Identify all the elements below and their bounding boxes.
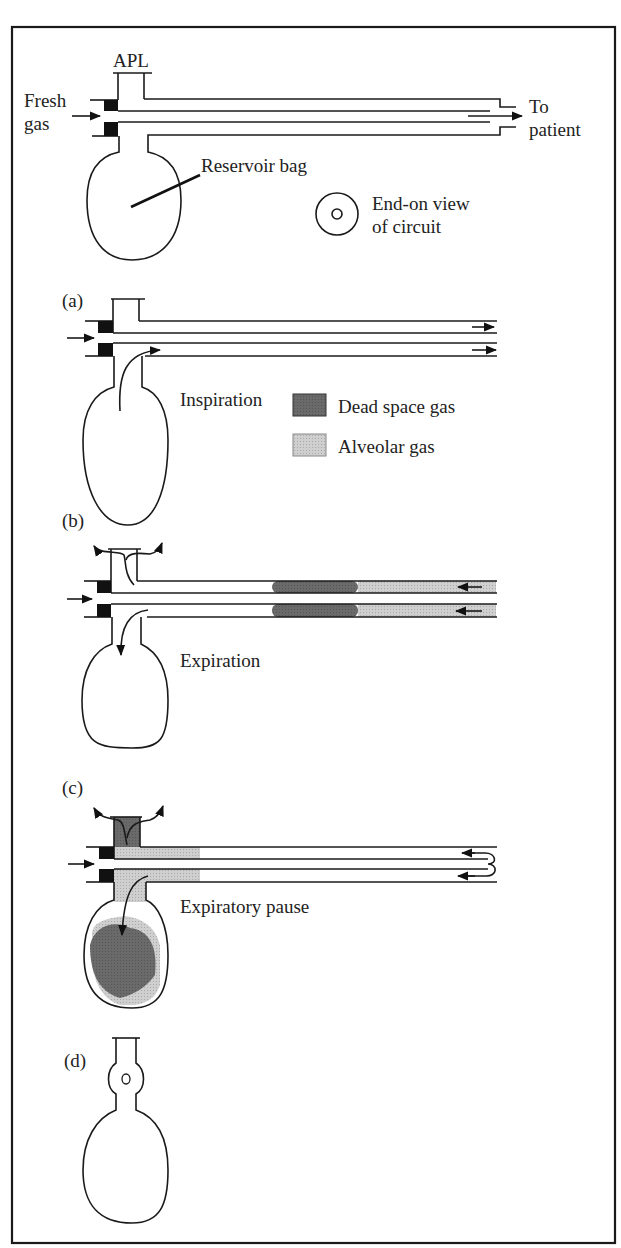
fresh-gas-label: gas	[24, 113, 49, 134]
reservoir-bag-label: Reservoir bag	[201, 155, 308, 176]
reservoir-bag-icon	[83, 356, 168, 525]
phase-label: Expiratory pause	[180, 896, 309, 917]
loop-arrow-icon	[468, 853, 495, 876]
fresh-gas-inlet-block	[104, 100, 118, 111]
end-on-view-label: End-on view	[372, 193, 470, 214]
end-on-view-icon	[316, 193, 358, 235]
patient-to-bag-arrow-icon	[121, 610, 148, 655]
phase-label: Expiration	[180, 650, 261, 671]
fresh-gas-label: Fresh	[24, 90, 67, 111]
legend-swatch-dead-space	[293, 394, 326, 416]
breathing-circuit-figure: APL Fresh gas To patient Reservoir bag E…	[0, 0, 621, 1248]
panel-c-expiratory-pause: (c) Expiratory pause	[62, 777, 497, 1008]
overview-circuit: APL Fresh gas To patient Reservoir bag E…	[24, 50, 581, 260]
panel-tag: (a)	[62, 290, 83, 312]
end-on-view-label: of circuit	[372, 216, 442, 237]
apl-label: APL	[113, 50, 149, 71]
apl-vent-arrow-icon	[126, 543, 162, 560]
end-on-circuit-icon	[122, 1074, 130, 1084]
legend-label: Dead space gas	[338, 396, 455, 417]
to-patient-label: patient	[529, 119, 581, 140]
reservoir-bag-icon	[82, 617, 168, 748]
panel-tag: (b)	[62, 510, 84, 532]
legend-label: Alveolar gas	[338, 436, 435, 457]
reservoir-bag-icon	[83, 1038, 168, 1223]
panel-a-inspiration: (a) Inspiration Dead space gas Alveolar …	[62, 290, 497, 525]
legend-swatch-alveolar	[293, 434, 326, 456]
to-patient-label: To	[529, 96, 549, 117]
apl-vent-arrow-icon	[94, 546, 134, 585]
panel-b-expiration: (b) Expiration	[62, 510, 497, 748]
panel-tag: (c)	[62, 777, 83, 799]
panel-d: (d)	[64, 1038, 168, 1223]
panel-tag: (d)	[64, 1050, 86, 1072]
fresh-gas-inlet-block	[104, 122, 118, 136]
bag-to-patient-arrow-icon	[120, 350, 160, 411]
phase-label: Inspiration	[180, 389, 263, 410]
figure-frame	[12, 27, 615, 1243]
reservoir-bag-icon	[87, 136, 181, 260]
